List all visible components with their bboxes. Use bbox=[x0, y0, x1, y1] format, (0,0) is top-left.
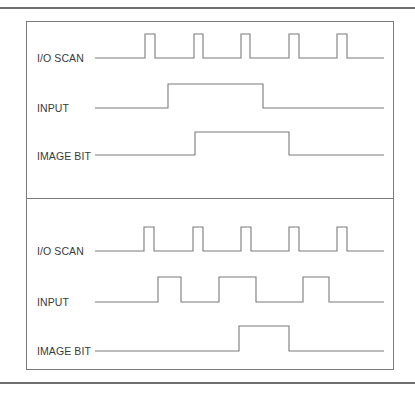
waveform-io-scan-top bbox=[95, 34, 384, 58]
waveform-input-bottom bbox=[95, 277, 384, 302]
waveform-io-scan-bottom bbox=[95, 227, 384, 251]
waveform-image-bit-bottom bbox=[95, 326, 384, 351]
waveform-image-bit-top bbox=[95, 132, 384, 155]
waveform-input-top bbox=[95, 84, 384, 108]
timing-waveforms bbox=[0, 0, 415, 394]
